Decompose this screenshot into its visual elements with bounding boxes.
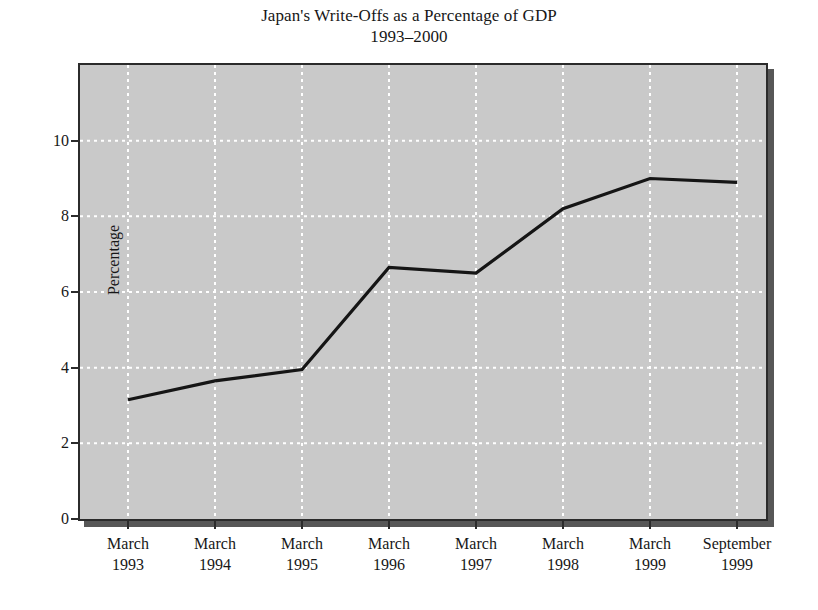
x-tick-label-line: March [281, 533, 323, 554]
x-tick-label-line: 1997 [455, 554, 497, 575]
y-tick-mark-4 [71, 367, 78, 369]
x-tick-label-line: March [542, 533, 584, 554]
x-tick-label-line: 1998 [542, 554, 584, 575]
x-tick-mark-4 [475, 521, 477, 529]
x-tick-label-line: 1993 [107, 554, 149, 575]
x-tick-mark-0 [127, 521, 129, 529]
x-tick-label-3: March1996 [368, 533, 410, 575]
plot-box [78, 63, 768, 521]
x-tick-label-line: 1999 [629, 554, 671, 575]
y-tick-mark-6 [71, 291, 78, 293]
x-tick-label-1: March1994 [194, 533, 236, 575]
x-tick-label-line: September [703, 533, 771, 554]
x-tick-label-6: March1999 [629, 533, 671, 575]
x-tick-mark-5 [562, 521, 564, 529]
x-tick-label-2: March1995 [281, 533, 323, 575]
x-tick-label-line: 1994 [194, 554, 236, 575]
chart-title: Japan's Write-Offs as a Percentage of GD… [0, 5, 818, 47]
x-tick-label-line: 1999 [703, 554, 771, 575]
y-axis-title: Percentage [105, 180, 123, 340]
y-tick-mark-10 [71, 140, 78, 142]
x-tick-label-7: September1999 [703, 533, 771, 575]
chart-title-subtitle: 1993–2000 [0, 26, 818, 47]
x-tick-label-line: March [629, 533, 671, 554]
x-tick-mark-2 [301, 521, 303, 529]
x-tick-label-line: March [107, 533, 149, 554]
x-tick-mark-1 [214, 521, 216, 529]
y-tick-label-6: 6 [61, 283, 69, 301]
x-tick-mark-6 [649, 521, 651, 529]
page-caption-partial [0, 596, 818, 610]
y-tick-label-10: 10 [53, 132, 69, 150]
x-tick-label-0: March1993 [107, 533, 149, 575]
x-tick-label-line: March [455, 533, 497, 554]
y-tick-label-2: 2 [61, 434, 69, 452]
x-tick-label-line: 1995 [281, 554, 323, 575]
x-tick-label-line: March [194, 533, 236, 554]
x-tick-label-line: March [368, 533, 410, 554]
y-tick-label-8: 8 [61, 207, 69, 225]
x-tick-mark-3 [388, 521, 390, 529]
gridlines-group [80, 65, 766, 519]
series-line-write-offs [128, 179, 737, 400]
y-tick-mark-8 [71, 215, 78, 217]
y-tick-mark-2 [71, 442, 78, 444]
plot-svg [80, 65, 766, 519]
y-tick-label-0: 0 [61, 510, 69, 528]
chart-title-line-1: Japan's Write-Offs as a Percentage of GD… [0, 5, 818, 26]
x-tick-label-4: March1997 [455, 533, 497, 575]
x-tick-mark-7 [736, 521, 738, 529]
y-tick-mark-0 [71, 518, 78, 520]
chart-plot-area: 0246810 Percentage March1993March1994Mar… [78, 63, 768, 521]
x-tick-label-5: March1998 [542, 533, 584, 575]
y-tick-label-4: 4 [61, 359, 69, 377]
x-tick-label-line: 1996 [368, 554, 410, 575]
